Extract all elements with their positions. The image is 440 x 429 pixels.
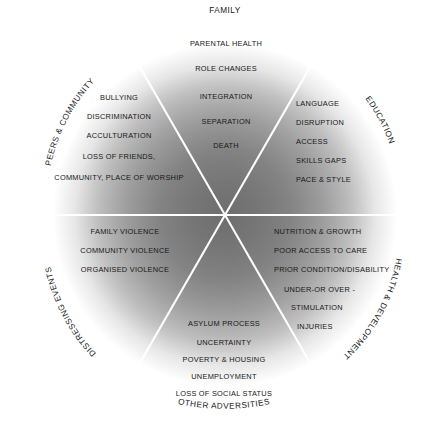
diagram-canvas: FAMILY PEERS & COMMUNITY EDUCATION HEALT… xyxy=(0,0,440,429)
list-item: UNCERTAINTY xyxy=(197,338,252,347)
list-item: PARENTAL HEALTH xyxy=(190,39,262,48)
list-item: COMMUNITY, PLACE OF WORSHIP xyxy=(54,173,183,182)
adversities-radial-diagram: FAMILY PEERS & COMMUNITY EDUCATION HEALT… xyxy=(0,0,440,429)
list-item: STIMULATION xyxy=(291,303,343,312)
list-item: ORGANISED VIOLENCE xyxy=(81,265,169,274)
list-item: INJURIES xyxy=(297,322,333,331)
list-item: POVERTY & HOUSING xyxy=(183,355,266,364)
sector-items-distressing-events: FAMILY VIOLENCE COMMUNITY VIOLENCE ORGAN… xyxy=(80,227,169,274)
list-item: ACCESS xyxy=(296,137,328,146)
list-item: BULLYING xyxy=(100,93,138,102)
list-item: SKILLS GAPS xyxy=(296,156,346,165)
list-item: POOR ACCESS TO CARE xyxy=(274,246,367,255)
list-item: DISCRIMINATION xyxy=(87,112,151,121)
list-item: DEATH xyxy=(213,141,239,150)
list-item: SEPARATION xyxy=(201,117,250,126)
list-item: LANGUAGE xyxy=(296,99,339,108)
list-item: ACCULTURATION xyxy=(87,131,152,140)
sector-label-family: FAMILY xyxy=(209,6,241,15)
list-item: ROLE CHANGES xyxy=(195,64,257,73)
sector-label-other-adversities: OTHER ADVERSITIES xyxy=(177,397,270,411)
list-item: LOSS OF FRIENDS, xyxy=(83,152,156,161)
list-item: NUTRITION & GROWTH xyxy=(274,227,361,236)
list-item: LOSS OF SOCIAL STATUS xyxy=(176,389,272,398)
list-item: PACE & STYLE xyxy=(296,175,351,184)
list-item: UNEMPLOYMENT xyxy=(191,372,257,381)
list-item: DISRUPTION xyxy=(296,118,344,127)
list-item: INTEGRATION xyxy=(200,92,253,101)
list-item: UNDER-OR OVER - xyxy=(284,285,355,294)
list-item: COMMUNITY VIOLENCE xyxy=(80,246,169,255)
list-item: PRIOR CONDITION/DISABILITY xyxy=(274,265,389,274)
list-item: FAMILY VIOLENCE xyxy=(91,227,160,236)
list-item: ASYLUM PROCESS xyxy=(188,319,260,328)
